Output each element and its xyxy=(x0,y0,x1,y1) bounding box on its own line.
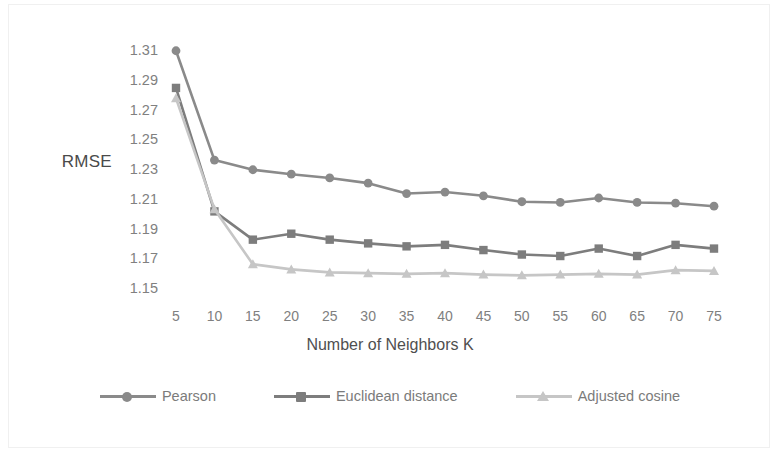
data-point-marker xyxy=(479,246,487,254)
x-tick-label: 75 xyxy=(694,308,734,324)
series-pearson xyxy=(172,46,719,210)
data-point-marker xyxy=(287,230,295,238)
data-point-marker xyxy=(710,244,718,252)
x-tick-label: 70 xyxy=(656,308,696,324)
legend-marker-square-icon xyxy=(296,392,306,402)
x-tick-label: 35 xyxy=(387,308,427,324)
legend-swatch-circle-icon xyxy=(100,389,156,403)
data-point-marker xyxy=(479,191,488,200)
rmse-vs-neighbors-chart: RMSE 1.311.291.271.251.231.211.191.171.1… xyxy=(0,0,780,458)
data-point-marker xyxy=(556,198,565,207)
data-point-marker xyxy=(364,179,373,188)
data-point-marker xyxy=(172,84,180,92)
x-tick-label: 10 xyxy=(194,308,234,324)
data-point-marker xyxy=(402,189,411,198)
x-tick-label: 20 xyxy=(271,308,311,324)
x-tick-label: 25 xyxy=(310,308,350,324)
x-tick-label: 30 xyxy=(348,308,388,324)
data-point-marker xyxy=(556,252,564,260)
x-tick-label: 45 xyxy=(463,308,503,324)
data-point-marker xyxy=(172,46,181,55)
data-point-marker xyxy=(326,235,334,243)
x-axis-title: Number of Neighbors K xyxy=(0,336,780,354)
data-point-marker xyxy=(248,165,257,174)
data-point-marker xyxy=(671,241,679,249)
x-tick-label: 65 xyxy=(617,308,657,324)
legend-swatch-square-icon xyxy=(274,389,330,403)
data-point-marker xyxy=(671,199,680,208)
legend-marker-triangle-icon xyxy=(537,391,549,401)
legend-entry-euclidean-distance[interactable]: Euclidean distance xyxy=(274,388,458,404)
series-line xyxy=(176,88,714,256)
chart-legend: PearsonEuclidean distanceAdjusted cosine xyxy=(0,388,780,404)
data-point-marker xyxy=(441,188,450,197)
data-point-marker xyxy=(595,244,603,252)
data-point-marker xyxy=(287,170,296,179)
data-point-marker xyxy=(710,202,719,211)
legend-marker-circle-icon xyxy=(122,392,132,402)
x-tick-label: 40 xyxy=(425,308,465,324)
data-point-marker xyxy=(441,241,449,249)
legend-entry-adjusted-cosine[interactable]: Adjusted cosine xyxy=(516,388,680,404)
data-point-marker xyxy=(325,174,334,183)
legend-swatch-triangle-icon xyxy=(516,389,572,403)
data-point-marker xyxy=(594,194,603,203)
data-point-marker xyxy=(402,242,410,250)
data-point-marker xyxy=(633,252,641,260)
x-tick-label: 15 xyxy=(233,308,273,324)
data-point-marker xyxy=(518,250,526,258)
x-tick-label: 60 xyxy=(579,308,619,324)
legend-entry-pearson[interactable]: Pearson xyxy=(100,388,216,404)
series-line xyxy=(176,51,714,206)
series-adjusted-cosine xyxy=(171,93,719,279)
data-point-marker xyxy=(364,239,372,247)
legend-label: Pearson xyxy=(162,388,216,404)
data-point-marker xyxy=(517,197,526,206)
legend-label: Adjusted cosine xyxy=(578,388,680,404)
x-tick-label: 55 xyxy=(540,308,580,324)
x-tick-label: 50 xyxy=(502,308,542,324)
x-tick-label: 5 xyxy=(156,308,196,324)
data-point-marker xyxy=(633,198,642,207)
data-point-marker xyxy=(249,235,257,243)
data-point-marker xyxy=(210,156,219,165)
legend-label: Euclidean distance xyxy=(336,388,458,404)
